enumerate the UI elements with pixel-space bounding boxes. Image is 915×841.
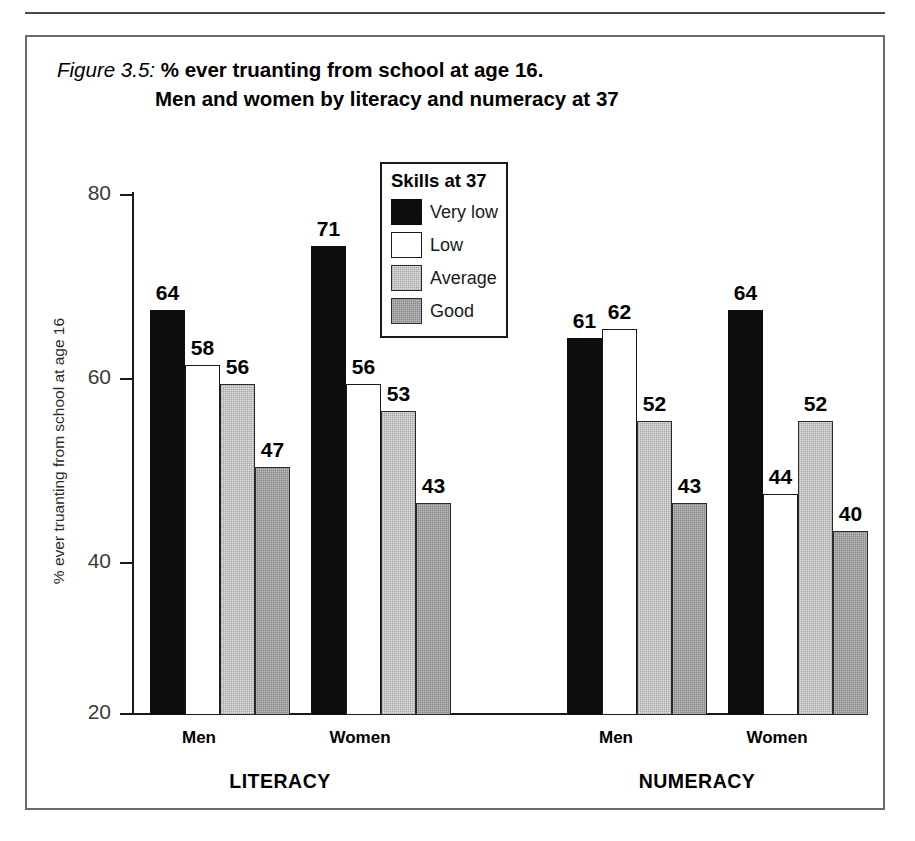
legend-swatch-average-icon bbox=[391, 265, 422, 291]
bar-value-label: 44 bbox=[769, 466, 792, 487]
bar-value-label: 52 bbox=[804, 393, 827, 414]
bar-value-label: 58 bbox=[191, 337, 214, 358]
y-tick-60: 60 bbox=[27, 378, 133, 380]
bar-value-label: 43 bbox=[678, 475, 701, 496]
bar-value-label: 47 bbox=[261, 439, 284, 460]
bar-value-label: 64 bbox=[734, 282, 757, 303]
bar-value-label: 53 bbox=[387, 383, 410, 404]
legend-item-good[interactable]: Good bbox=[391, 294, 498, 327]
y-tick-40: 40 bbox=[27, 562, 133, 564]
page-top-rule bbox=[25, 12, 885, 14]
bar-literacy-women-average: 53 bbox=[381, 411, 416, 715]
bar-numeracy-women-average: 52 bbox=[798, 421, 833, 715]
bar-value-label: 64 bbox=[156, 282, 179, 303]
bar-numeracy-women-very-low: 64 bbox=[728, 310, 763, 715]
y-tick-label-20: 20 bbox=[65, 701, 111, 722]
bar-literacy-women-very-low: 71 bbox=[311, 246, 346, 715]
group-label-literacy: LITERACY bbox=[229, 770, 331, 793]
figure-container: Figure 3.5: % ever truanting from school… bbox=[25, 35, 885, 810]
legend-swatch-very-low-icon bbox=[391, 199, 422, 225]
bar-literacy-women-low: 56 bbox=[346, 384, 381, 715]
y-tick-label-80: 80 bbox=[65, 182, 111, 203]
bar-value-label: 56 bbox=[226, 356, 249, 377]
group-label-numeracy: NUMERACY bbox=[639, 770, 756, 793]
bar-literacy-men-average: 56 bbox=[220, 384, 255, 715]
legend-item-average[interactable]: Average bbox=[391, 261, 498, 294]
category-label-literacy-women: Women bbox=[329, 728, 390, 748]
bar-numeracy-women-low: 44 bbox=[763, 494, 798, 715]
legend-item-very-low[interactable]: Very low bbox=[391, 195, 498, 228]
legend-item-low[interactable]: Low bbox=[391, 228, 498, 261]
bar-literacy-women-good: 43 bbox=[416, 503, 451, 715]
bar-value-label: 62 bbox=[608, 301, 631, 322]
chart-legend: Skills at 37 Very low Low Average Good bbox=[380, 162, 508, 338]
y-tick-label-40: 40 bbox=[65, 550, 111, 571]
category-label-numeracy-men: Men bbox=[599, 728, 633, 748]
bar-literacy-men-low: 58 bbox=[185, 365, 220, 715]
bar-literacy-men-very-low: 64 bbox=[150, 310, 185, 715]
legend-label-very-low: Very low bbox=[430, 202, 498, 222]
legend-swatch-low-icon bbox=[391, 232, 422, 258]
legend-label-good: Good bbox=[430, 301, 474, 321]
bar-numeracy-men-average: 52 bbox=[637, 421, 672, 715]
bar-value-label: 71 bbox=[317, 218, 340, 239]
bar-numeracy-men-very-low: 61 bbox=[567, 338, 602, 715]
category-label-literacy-men: Men bbox=[182, 728, 216, 748]
legend-label-average: Average bbox=[430, 268, 497, 288]
bar-numeracy-women-good: 40 bbox=[833, 531, 868, 715]
legend-label-low: Low bbox=[430, 235, 463, 255]
category-label-numeracy-women: Women bbox=[746, 728, 807, 748]
bar-literacy-men-good: 47 bbox=[255, 467, 290, 715]
bar-value-label: 61 bbox=[573, 310, 596, 331]
bar-value-label: 56 bbox=[352, 356, 375, 377]
chart-plot-area: 80 60 40 20 % ever truanting from school… bbox=[27, 37, 887, 812]
bar-value-label: 43 bbox=[422, 475, 445, 496]
y-axis-title: % ever truanting from school at age 16 bbox=[50, 241, 68, 661]
y-tick-20: 20 bbox=[27, 713, 133, 715]
bar-value-label: 52 bbox=[643, 393, 666, 414]
bar-value-label: 40 bbox=[839, 503, 862, 524]
bar-numeracy-men-low: 62 bbox=[602, 329, 637, 715]
bar-numeracy-men-good: 43 bbox=[672, 503, 707, 715]
y-axis-line bbox=[132, 192, 134, 715]
y-tick-label-60: 60 bbox=[65, 366, 111, 387]
legend-swatch-good-icon bbox=[391, 298, 422, 324]
y-tick-80: 80 bbox=[27, 194, 133, 196]
legend-title: Skills at 37 bbox=[391, 170, 498, 192]
